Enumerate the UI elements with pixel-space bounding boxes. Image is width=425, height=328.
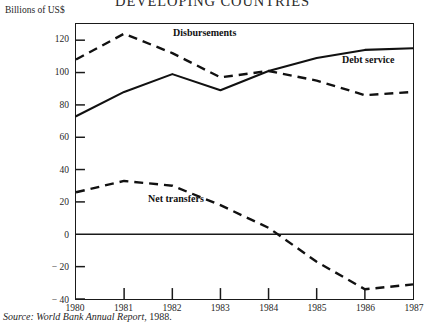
series-label-disbursements: Disbursements — [173, 27, 236, 38]
source-text: Source: World Bank Annual Report — [3, 311, 144, 322]
y-tick-label-0: 0 — [9, 230, 69, 240]
y-tick-marks — [76, 40, 85, 299]
x-tick-label-1985: 1985 — [295, 303, 339, 313]
source-year: 1988. — [149, 311, 172, 322]
y-tick-label-80: 80 — [9, 100, 69, 110]
y-tick-label-minus-20: − 20 — [9, 262, 69, 272]
x-tick-label-1987: 1987 — [392, 303, 425, 313]
y-tick-label-20: 20 — [9, 197, 69, 207]
series-label-net-transfers: Net transfers — [148, 193, 204, 204]
x-tick-marks — [124, 288, 365, 299]
series-line-net-transfers — [76, 181, 413, 289]
y-axis-unit-label: Billions of US$ — [5, 5, 65, 15]
source-caption: Source: World Bank Annual Report, 1988. — [3, 311, 172, 322]
x-tick-label-1986: 1986 — [344, 303, 388, 313]
series-canvas — [76, 24, 413, 299]
x-tick-label-1983: 1983 — [198, 303, 242, 313]
series-label-debt-service: Debt service — [342, 54, 394, 65]
y-tick-label-40: 40 — [9, 165, 69, 175]
chart-figure: DEVELOPING COUNTRIES Billions of US$ 120… — [0, 0, 425, 328]
y-tick-label-100: 100 — [9, 67, 69, 77]
y-tick-label-60: 60 — [9, 132, 69, 142]
y-tick-label-120: 120 — [9, 34, 69, 44]
x-tick-label-1984: 1984 — [247, 303, 291, 313]
